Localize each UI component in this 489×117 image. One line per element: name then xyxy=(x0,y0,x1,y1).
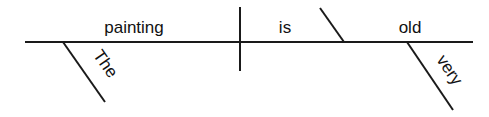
complement-separator xyxy=(320,8,344,42)
sentence-diagram: painting is old The very xyxy=(0,0,489,117)
subject-word: painting xyxy=(104,18,164,37)
predicate-adjective-word: old xyxy=(399,18,422,37)
modifier-word-very: very xyxy=(433,51,467,89)
verb-word: is xyxy=(279,18,291,37)
modifier-word-the: The xyxy=(89,46,121,81)
